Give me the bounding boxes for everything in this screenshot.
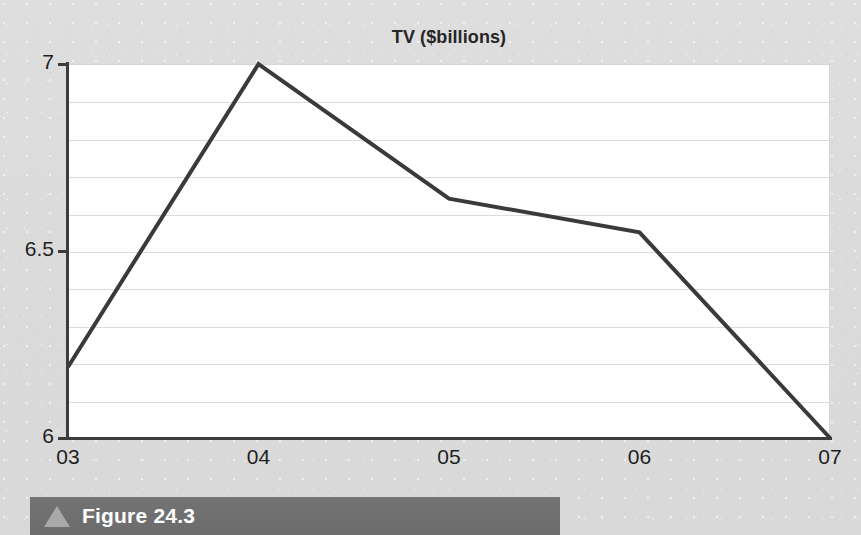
gridlines: [68, 65, 829, 438]
gridline: [68, 402, 829, 403]
y-axis-tick-label: 6.5: [25, 237, 54, 261]
x-axis-line: [66, 437, 832, 440]
x-axis-tick-label: 05: [437, 445, 460, 469]
gridline: [68, 289, 829, 290]
chart-title: TV ($billions): [68, 27, 830, 48]
y-axis-tick: [58, 437, 67, 440]
gridline: [68, 177, 829, 178]
figure-page: TV ($billions) 66.57 0304050607 Figure 2…: [0, 0, 861, 535]
x-axis-tick-label: 06: [628, 445, 651, 469]
gridline: [68, 102, 829, 103]
y-axis-tick-label: 6: [42, 424, 54, 448]
x-axis-tick-label: 07: [818, 445, 841, 469]
figure-caption-label: Figure 24.3: [82, 504, 195, 528]
gridline: [68, 364, 829, 365]
x-axis-tick-label: 03: [56, 445, 79, 469]
y-axis-tick-label: 7: [42, 50, 54, 74]
triangle-up-icon: [44, 506, 70, 527]
gridline: [68, 252, 829, 253]
figure-caption-bar: Figure 24.3: [30, 497, 560, 535]
y-axis-tick: [58, 250, 67, 253]
gridline: [68, 215, 829, 216]
y-axis-tick: [58, 63, 67, 66]
x-axis-tick-label: 04: [247, 445, 270, 469]
gridline: [68, 140, 829, 141]
plot-area: [68, 64, 830, 438]
gridline: [68, 327, 829, 328]
